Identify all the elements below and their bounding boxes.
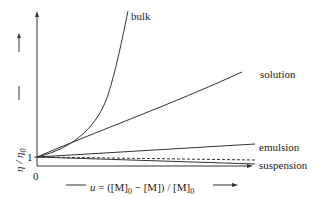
xlabel-sub2: 0 <box>190 187 194 196</box>
x-axis-label: u = ([M]0 − [M]) / [M]0 <box>90 180 194 198</box>
ylabel-arrow-icon <box>17 33 21 38</box>
ylabel-eta0: η <box>13 153 25 158</box>
ylabel-sub: 0 <box>19 149 28 153</box>
label-bulk: bulk <box>131 11 151 22</box>
series-bulk <box>37 11 128 157</box>
x-axis-arrow-icon <box>247 164 253 168</box>
series-suspension <box>37 157 255 164</box>
xlabel-mid: − [M]) / [M] <box>132 181 190 193</box>
label-suspension: suspension <box>259 160 307 171</box>
x-tick-label-0: 0 <box>33 171 39 182</box>
label-emulsion: emulsion <box>259 142 299 153</box>
y-tick-label-1: 1 <box>27 152 33 163</box>
y-axis-label: η / η0 <box>12 142 26 172</box>
xlabel-arrow-icon <box>232 183 238 187</box>
series-solution <box>37 72 242 157</box>
x-axis <box>37 164 253 168</box>
y-axis <box>35 11 39 166</box>
label-solution: solution <box>260 69 295 80</box>
ylabel-sep: / <box>13 158 25 167</box>
ylabel-eta: η <box>13 167 25 172</box>
xlabel-eq: = ([M] <box>96 181 128 193</box>
series-emulsion <box>37 144 255 157</box>
y-axis-arrow-icon <box>35 11 39 17</box>
